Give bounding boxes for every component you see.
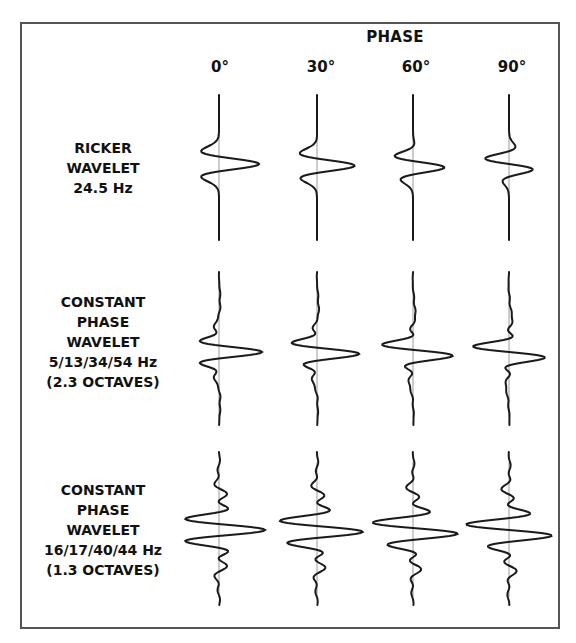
wavelet-trace-row0-phase60 — [395, 95, 445, 240]
wavelet-trace-row0-phase0 — [201, 95, 259, 240]
wavelet-trace-row0-phase30 — [300, 95, 355, 240]
zero-axes — [219, 105, 509, 597]
wavelet-trace-row1-phase0 — [200, 272, 262, 425]
wavelet-trace-row1-phase60 — [382, 272, 452, 425]
wavelet-trace-row2-phase0 — [185, 452, 265, 605]
wavelet-traces — [185, 95, 551, 605]
wavelet-trace-row1-phase30 — [292, 272, 359, 425]
wavelet-trace-row2-phase60 — [373, 452, 457, 605]
wavelet-trace-row2-phase30 — [280, 452, 363, 605]
wavelet-grid — [0, 0, 576, 643]
